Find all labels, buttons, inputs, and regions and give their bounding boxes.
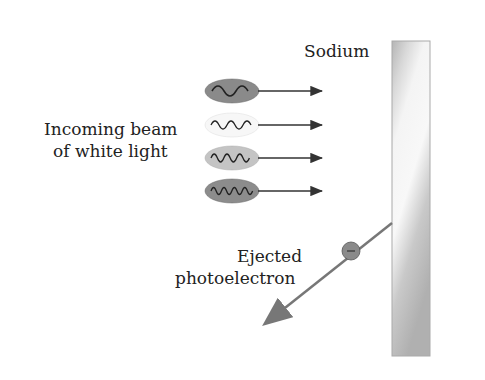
beam-label-line2: of white light bbox=[53, 141, 168, 161]
photon-2 bbox=[205, 113, 322, 137]
sodium-slab bbox=[392, 41, 430, 356]
electron-label-line1: Ejected bbox=[237, 246, 302, 266]
sodium-label: Sodium bbox=[304, 41, 369, 61]
photoelectric-diagram bbox=[0, 0, 485, 380]
photon-4 bbox=[205, 179, 322, 203]
photon-3 bbox=[205, 146, 322, 170]
beam-label-line1: Incoming beam bbox=[44, 119, 177, 139]
photon-1 bbox=[205, 79, 322, 103]
electron-label-line2: photoelectron bbox=[175, 268, 295, 288]
